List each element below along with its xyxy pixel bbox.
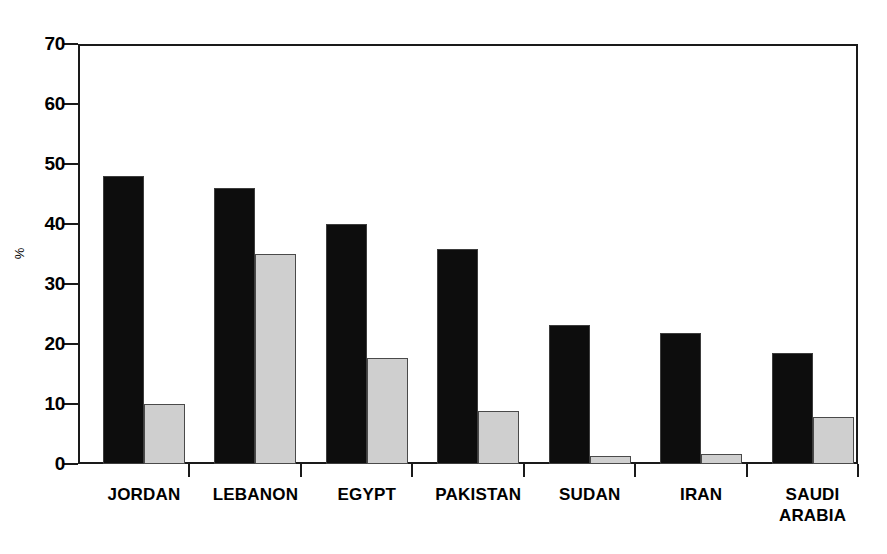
y-tick-mark xyxy=(64,223,78,225)
y-tick-label: 40 xyxy=(0,214,65,233)
x-tick-mark xyxy=(634,464,636,477)
y-tick-label: 70 xyxy=(0,34,65,53)
bar-series-1 xyxy=(103,176,144,464)
bar-series-1 xyxy=(437,249,478,464)
bar-series-1 xyxy=(549,325,590,464)
y-tick-label: 0 xyxy=(0,454,65,473)
bar-series-1 xyxy=(772,353,813,464)
y-axis-label: % xyxy=(12,248,27,260)
bar-series-2 xyxy=(367,358,408,464)
y-tick-label: 30 xyxy=(0,274,65,293)
x-tick-mark xyxy=(411,464,413,477)
bar-series-2 xyxy=(813,417,854,464)
bar-series-2 xyxy=(590,456,631,464)
bar-chart-figure: % 010203040506070 JORDANLEBANONEGYPTPAKI… xyxy=(0,0,887,554)
y-tick-mark xyxy=(64,283,78,285)
y-tick-mark xyxy=(64,403,78,405)
bar-series-2 xyxy=(255,254,296,464)
y-tick-label: 20 xyxy=(0,334,65,353)
x-tick-mark xyxy=(857,464,859,477)
y-tick-mark xyxy=(64,343,78,345)
y-tick-mark xyxy=(64,463,78,465)
x-tick-mark xyxy=(188,464,190,477)
bar-series-1 xyxy=(214,188,255,464)
plot-area xyxy=(78,44,858,464)
y-tick-label: 60 xyxy=(0,94,65,113)
x-tick-mark xyxy=(523,464,525,477)
y-tick-mark xyxy=(64,163,78,165)
y-tick-label: 50 xyxy=(0,154,65,173)
bar-series-2 xyxy=(478,411,519,464)
y-tick-mark xyxy=(64,103,78,105)
bar-series-1 xyxy=(326,224,367,464)
bar-series-2 xyxy=(144,404,185,464)
y-tick-label: 10 xyxy=(0,394,65,413)
x-tick-mark xyxy=(300,464,302,477)
bar-series-1 xyxy=(660,333,701,464)
y-tick-mark xyxy=(64,43,78,45)
x-tick-mark xyxy=(746,464,748,477)
bar-series-2 xyxy=(701,454,742,464)
x-category-label: SAUDI ARABIA xyxy=(733,484,887,526)
